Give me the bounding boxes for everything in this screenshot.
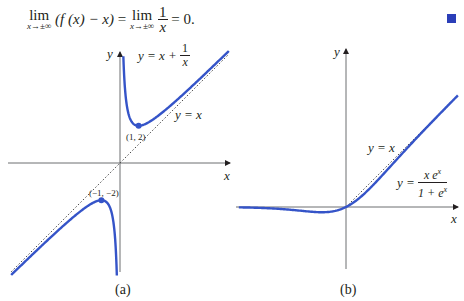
numerator-exponent: x: [438, 167, 442, 176]
x-axis-label-b: x: [451, 212, 457, 225]
asymptote-label-a: y = x: [175, 108, 202, 121]
panel-a: [8, 51, 230, 276]
point-label-1-2: (1, 2): [126, 131, 146, 144]
function-label-b: y = x ex 1 + ex: [397, 165, 447, 200]
numerator: 1: [180, 42, 190, 56]
function-label-a-fraction: 1 x: [180, 42, 190, 69]
numerator: x ex: [418, 165, 447, 183]
y-axis-label-b: y: [334, 45, 340, 58]
panel-caption-b: (b): [340, 282, 356, 298]
point-marker-1-2: [136, 123, 142, 129]
function-label-a: y = x + 1 x: [138, 42, 190, 69]
x-axis-label-a: x: [224, 169, 230, 182]
denominator-exponent: x: [443, 185, 447, 194]
y-axis-label-a: y: [107, 47, 113, 60]
asymptote-label-b: y = x: [368, 141, 395, 154]
numerator-base: x e: [424, 168, 438, 182]
panel-caption-a: (a): [115, 282, 131, 298]
function-label-b-fraction: x ex 1 + ex: [418, 165, 447, 200]
denominator-base: 1 + e: [418, 186, 443, 200]
denominator: 1 + ex: [418, 183, 447, 200]
curve-a-left-branch: [11, 200, 117, 275]
panel-b: [236, 49, 458, 269]
point-label-neg1-neg2: (−1, −2): [89, 187, 119, 200]
denominator: x: [180, 56, 190, 69]
function-label-a-lhs: y = x +: [138, 48, 177, 63]
function-label-b-lhs: y =: [397, 175, 415, 190]
